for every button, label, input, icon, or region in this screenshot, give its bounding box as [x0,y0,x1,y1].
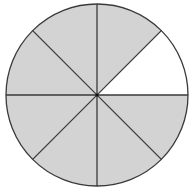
fraction-circle-diagram [0,0,191,191]
center-point [95,93,98,96]
